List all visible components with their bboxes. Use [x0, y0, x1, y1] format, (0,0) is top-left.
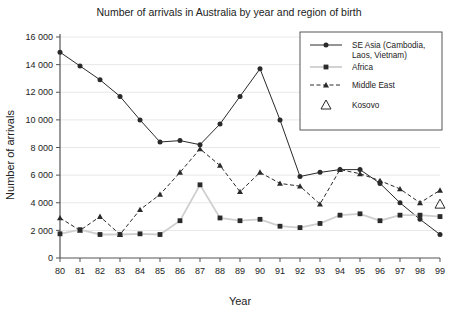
- y-axis-title: Number of arrivals: [4, 110, 16, 200]
- legend-marker: [324, 43, 329, 48]
- x-tick-label: 87: [195, 266, 205, 276]
- y-tick-label: 8 000: [30, 143, 53, 153]
- data-point: [378, 218, 383, 223]
- data-point: [178, 218, 183, 223]
- data-point: [418, 213, 423, 218]
- data-point: [218, 122, 223, 127]
- data-point: [438, 232, 443, 237]
- x-tick-label: 96: [375, 266, 385, 276]
- data-point: [58, 231, 63, 236]
- y-tick-label: 6 000: [30, 170, 53, 180]
- y-tick-label: 10 000: [25, 115, 53, 125]
- x-tick-label: 93: [315, 266, 325, 276]
- x-tick-label: 94: [335, 266, 345, 276]
- data-point: [238, 94, 243, 99]
- legend-label: Kosovo: [352, 101, 380, 110]
- chart-legend: SE Asia (Cambodia,Laos, Vietnam)AfricaMi…: [300, 32, 442, 130]
- legend-label: SE Asia (Cambodia,: [352, 41, 425, 50]
- data-point: [138, 117, 143, 122]
- x-tick-label: 92: [295, 266, 305, 276]
- data-point: [398, 200, 403, 205]
- x-tick-label: 86: [175, 266, 185, 276]
- legend-label: Africa: [352, 63, 373, 72]
- data-point: [158, 139, 163, 144]
- legend-label: Middle East: [352, 81, 396, 90]
- data-point: [198, 182, 203, 187]
- data-point: [138, 231, 143, 236]
- x-tick-label: 88: [215, 266, 225, 276]
- x-tick-label: 83: [115, 266, 125, 276]
- arrivals-line-chart: Number of arrivals in Australia by year …: [0, 0, 459, 313]
- legend-marker: [324, 65, 329, 70]
- data-point: [98, 77, 103, 82]
- x-tick-label: 97: [395, 266, 405, 276]
- data-point: [258, 217, 263, 222]
- x-tick-label: 99: [435, 266, 445, 276]
- x-tick-label: 85: [155, 266, 165, 276]
- y-tick-label: 2 000: [30, 226, 53, 236]
- data-point: [258, 66, 263, 71]
- data-point: [118, 94, 123, 99]
- data-point: [438, 214, 443, 219]
- x-tick-label: 84: [135, 266, 145, 276]
- x-tick-label: 80: [55, 266, 65, 276]
- data-point: [398, 213, 403, 218]
- x-axis-title: Year: [229, 295, 252, 307]
- data-point: [278, 224, 283, 229]
- x-tick-label: 98: [415, 266, 425, 276]
- y-tick-label: 14 000: [25, 60, 53, 70]
- y-tick-label: 4 000: [30, 198, 53, 208]
- data-point: [298, 174, 303, 179]
- x-tick-label: 82: [95, 266, 105, 276]
- data-point: [278, 117, 283, 122]
- y-tick-label: 0: [48, 253, 53, 263]
- data-point: [58, 50, 63, 55]
- data-point: [298, 225, 303, 230]
- data-point: [358, 211, 363, 216]
- x-tick-label: 81: [75, 266, 85, 276]
- chart-title: Number of arrivals in Australia by year …: [97, 6, 362, 18]
- data-point: [178, 138, 183, 143]
- x-tick-label: 91: [275, 266, 285, 276]
- y-tick-label: 16 000: [25, 32, 53, 42]
- data-point: [78, 64, 83, 69]
- x-tick-label: 95: [355, 266, 365, 276]
- data-point: [98, 232, 103, 237]
- data-point: [158, 232, 163, 237]
- legend-label-line2: Laos, Vietnam): [352, 51, 407, 60]
- data-point: [218, 216, 223, 221]
- data-point: [318, 170, 323, 175]
- x-tick-label: 90: [255, 266, 265, 276]
- data-point: [238, 218, 243, 223]
- y-tick-label: 12 000: [25, 87, 53, 97]
- chart-container: Number of arrivals in Australia by year …: [0, 0, 459, 313]
- data-point: [318, 221, 323, 226]
- data-point: [338, 213, 343, 218]
- x-tick-label: 89: [235, 266, 245, 276]
